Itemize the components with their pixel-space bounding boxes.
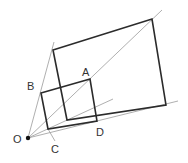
label-d: D bbox=[96, 127, 104, 138]
label-o: O bbox=[13, 134, 22, 145]
small-square bbox=[41, 79, 97, 129]
label-c: C bbox=[51, 144, 59, 155]
label-b: B bbox=[27, 81, 34, 92]
point-o bbox=[26, 136, 30, 140]
c-tick bbox=[48, 129, 55, 141]
diagram-canvas: O A B C D bbox=[0, 0, 188, 163]
ray-oa bbox=[28, 10, 162, 138]
label-a: A bbox=[82, 67, 89, 78]
large-square bbox=[53, 19, 166, 120]
